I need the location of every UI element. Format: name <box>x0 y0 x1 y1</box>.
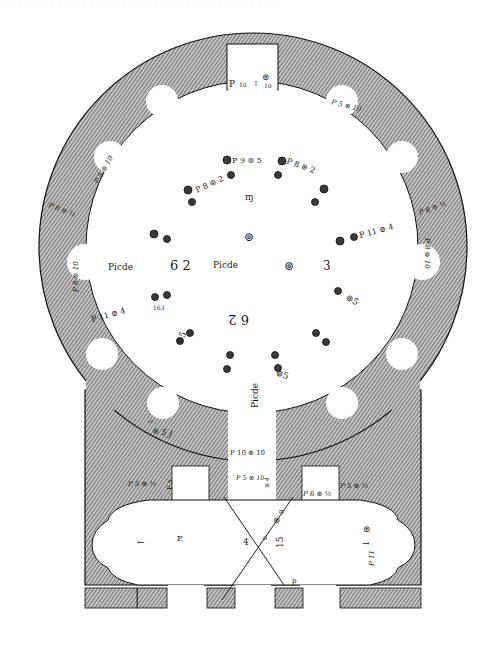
label-right-room-spiral: ⊚ <box>363 524 371 534</box>
label-right-wing-wall: P 5 ⊚ ½ <box>339 482 369 490</box>
label-left-wing-wall: P 5 ⊚ ½ <box>127 480 157 488</box>
label-door-left: P 5 ⊚ 10 <box>235 474 264 482</box>
label-right-room-p11: P 11 <box>368 550 376 567</box>
label-center-spiral: ⊚ <box>284 259 294 273</box>
label-picde: Picde <box>108 262 133 272</box>
label-3-right: 3 <box>323 259 331 273</box>
label-top-niche-num: 10 <box>239 81 247 88</box>
label-left-bottom-or: or <box>148 418 154 424</box>
label-center-o: o <box>263 534 267 542</box>
label-arc-center: P 9 ⊚ 5 <box>232 156 262 165</box>
label-top-niche-dim: 10 <box>264 82 272 89</box>
label-163: 163 <box>153 304 165 311</box>
label-center-8: 8 <box>278 510 286 514</box>
label-62-bottom: 6 2 <box>228 312 249 327</box>
label-top-niche-arrow: ↑ <box>253 80 259 88</box>
label-top-niche-p: P <box>229 79 235 89</box>
label-entrance: P 10 ⊚ 10 <box>230 449 265 457</box>
label-center-15: 15 <box>275 536 285 548</box>
label-center-4: 4 <box>243 537 249 547</box>
label-right-room-arrow: → <box>362 538 370 548</box>
label-picde-bottom: Picde <box>250 383 260 408</box>
label-diag-end: p <box>292 577 297 585</box>
label-left-door-f: F s <box>166 479 174 490</box>
label-top-niche-spiral: ⊚ <box>262 72 270 82</box>
label-center-spiral-top: ⊚ <box>244 230 254 244</box>
label-62-left: 6 2 <box>170 258 191 273</box>
label-right-niche: P 8 ⊚ 10 <box>423 237 431 269</box>
label-door-right-small: ⊚ 4 <box>263 477 270 488</box>
label-picde-left: Picde <box>213 260 238 270</box>
floor-plan-drawing: P 10 ↑ ⊚ 10 P 5 ⊚ 10 P 5 ⊚ 10 P 8 ⊚ ½ P … <box>0 0 504 645</box>
label-left-room-arrow: ← <box>137 537 145 547</box>
label-top-center-mark: ɱ <box>245 192 254 202</box>
label-door-right: P 6 ⊚ ½ <box>302 490 332 498</box>
label-left-niche: P 8 ⊚ 10 <box>72 261 80 293</box>
label-left-room-p: P. <box>177 534 183 543</box>
